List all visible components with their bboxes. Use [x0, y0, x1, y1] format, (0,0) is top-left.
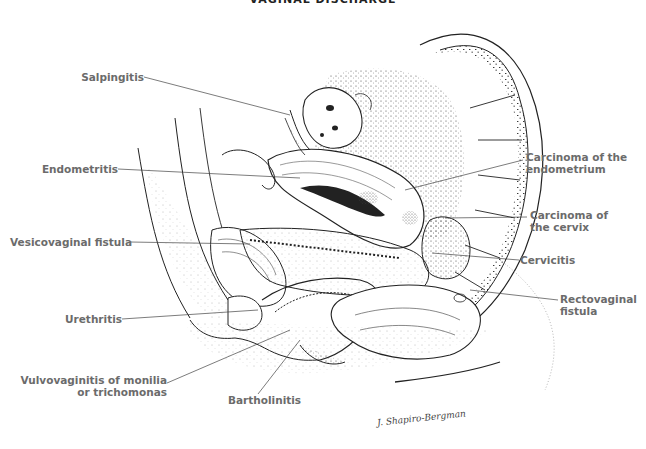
round-ligament	[222, 150, 275, 189]
label-carcinoma-endometrium-line2: endometrium	[526, 163, 606, 175]
endometrial-carcinoma-spot	[358, 191, 378, 205]
cervical-carcinoma-spot	[402, 211, 418, 225]
label-salpingitis: Salpingitis	[60, 71, 144, 83]
label-carcinoma-cervix-line1: Carcinoma of	[530, 209, 608, 221]
label-vesicovaginal-fistula: Vesicovaginal fistula	[10, 236, 130, 248]
label-carcinoma-cervix-line2: the cervix	[530, 221, 589, 233]
label-vulvovaginitis-line2: or trichomonas	[10, 386, 167, 398]
cervix	[422, 217, 470, 279]
label-rectovaginal-line1: Rectovaginal	[560, 293, 637, 305]
label-carcinoma-endometrium-line1: Carcinoma of the	[526, 151, 627, 163]
label-bartholinitis: Bartholinitis	[228, 394, 301, 406]
label-vulvovaginitis-line1: Vulvovaginitis of monilia	[10, 374, 167, 386]
label-urethritis: Urethritis	[40, 313, 122, 325]
label-endometritis: Endometritis	[30, 163, 118, 175]
label-rectovaginal-line2: fistula	[560, 305, 597, 317]
label-cervicitis: Cervicitis	[520, 254, 575, 266]
